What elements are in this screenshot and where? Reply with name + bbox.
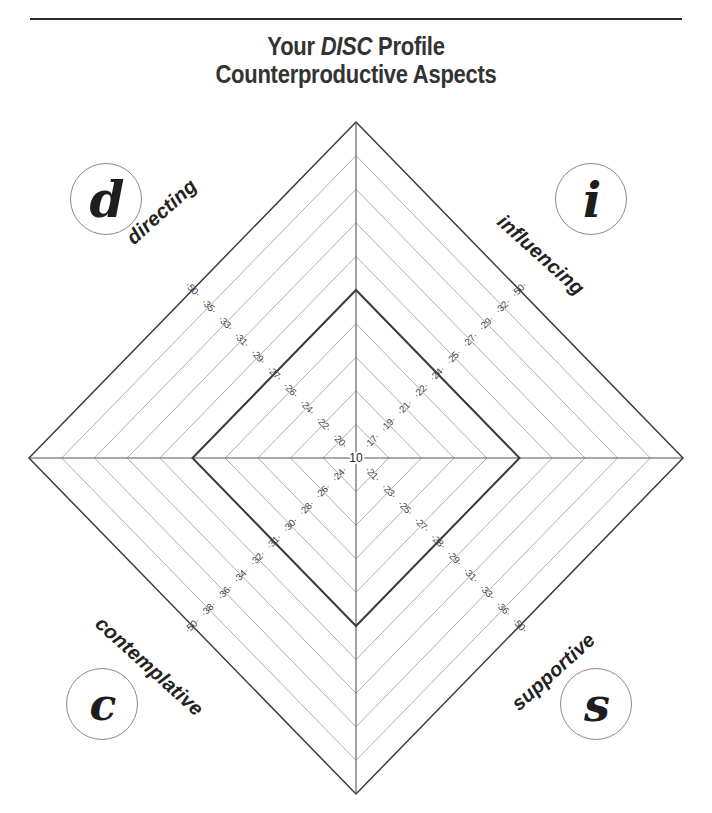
badge-i-influencing[interactable]: i: [555, 163, 627, 235]
badge-s-supportive[interactable]: s: [560, 668, 632, 740]
badge-s-glyph: s: [561, 669, 633, 741]
center-value-text: 10: [349, 451, 363, 465]
center-value: 1010: [349, 451, 363, 465]
badge-i-glyph: i: [556, 164, 628, 236]
badge-c-contemplative[interactable]: c: [66, 668, 138, 740]
badge-c-glyph: c: [67, 669, 139, 741]
disc-profile-page: Your DISC Profile Counterproductive Aspe…: [0, 0, 712, 813]
